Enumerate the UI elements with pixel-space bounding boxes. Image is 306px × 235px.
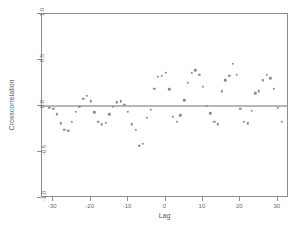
data-point [161,74,163,76]
y-tick-label: 1.0 [39,8,45,16]
data-point [93,111,95,113]
x-tick [239,197,240,201]
x-tick [277,197,278,201]
data-point [71,120,73,122]
data-point [209,112,211,114]
data-point [138,144,140,146]
data-point [153,87,155,89]
x-axis-label: Lag [41,212,288,219]
data-point [142,143,144,145]
data-point [254,92,256,94]
data-point [194,69,196,71]
x-tick [52,197,53,201]
data-point [190,72,192,74]
data-point [179,114,181,116]
data-point [127,110,129,112]
x-tick-label: -20 [85,203,94,209]
data-point [164,72,166,74]
data-point [131,123,133,125]
data-point [146,117,148,119]
data-point [232,62,234,64]
data-point [108,113,110,115]
data-point [67,130,69,132]
data-point [247,122,249,124]
data-point [217,123,219,125]
x-tick [202,197,203,201]
data-point [168,88,170,90]
data-point [202,85,204,87]
y-axis-label: Crosscorrelation [8,13,18,197]
data-point [265,74,267,76]
data-point [183,99,185,101]
data-point [74,110,76,112]
data-point [198,74,200,76]
x-tick-label: 30 [273,203,280,209]
data-point [104,121,106,123]
data-point [101,123,103,125]
x-tick-label: 20 [236,203,243,209]
data-point [63,129,65,131]
y-tick-label: -0.5 [41,145,47,155]
data-point [82,97,84,99]
x-tick-label: 0 [163,203,166,209]
y-tick-label: 0.0 [39,100,45,108]
x-tick [90,197,91,201]
data-point [273,87,275,89]
data-point [86,95,88,97]
data-point [149,108,151,110]
data-point [119,100,121,102]
data-point [134,129,136,131]
data-point [172,116,174,118]
data-point [277,107,279,109]
data-point [48,107,50,109]
data-point [243,120,245,122]
plot-frame [41,13,288,197]
data-point [235,74,237,76]
x-tick-label: -30 [48,203,57,209]
data-point [280,120,282,122]
data-point [89,100,91,102]
data-point [224,79,226,81]
data-point [220,90,222,92]
x-tick-label: -10 [123,203,132,209]
y-tick-label: 0.5 [39,54,45,62]
data-point [239,108,241,110]
data-point [187,82,189,84]
y-tick-label: -1.0 [41,191,47,201]
x-tick [127,197,128,201]
chart-page: -30-20-100102030 -1.0-0.50.00.51.0 Lag C… [0,0,306,235]
x-tick-label: 10 [199,203,206,209]
data-point [52,108,54,110]
data-point [116,101,118,103]
data-point [269,77,271,79]
data-point [262,79,264,81]
data-point [258,90,260,92]
data-point [60,122,62,124]
data-point [56,113,58,115]
data-point [250,109,252,111]
data-point [97,120,99,122]
data-point [213,120,215,122]
data-point [228,74,230,76]
data-point [157,75,159,77]
data-point [176,120,178,122]
x-tick [165,197,166,201]
plot-area [42,14,287,196]
